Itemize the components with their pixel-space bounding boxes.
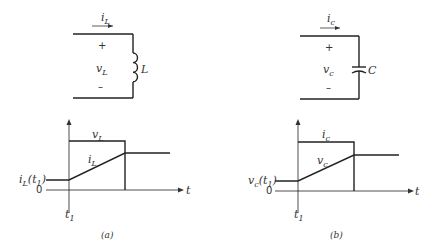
- y-axis-arrow-icon: [67, 119, 72, 125]
- graph-b: [275, 119, 414, 213]
- element-label-a: L: [140, 63, 148, 76]
- top-trace-label-a: vL: [92, 128, 104, 143]
- t-axis-arrow-icon: [178, 188, 184, 193]
- zero-label-a: 0: [36, 184, 42, 195]
- current-label-b: ic: [327, 12, 336, 27]
- current-arrow-a: [92, 24, 113, 28]
- top-trace-label-b: ic: [322, 128, 331, 143]
- figure: iL + vL – L vL iL iL(t1) 0 t t1 (a) ic +…: [0, 0, 440, 247]
- voltage-label-b: vc: [323, 63, 334, 78]
- current-label-a: iL: [101, 11, 110, 26]
- minus-sign-a: –: [98, 81, 103, 92]
- t-axis-label-a: t: [186, 184, 191, 197]
- t1-label-b: t1: [294, 208, 304, 223]
- ramp-trace-label-a: iL: [88, 153, 97, 168]
- element-label-b: C: [368, 64, 377, 77]
- plus-sign-b: +: [325, 42, 333, 53]
- plus-sign-a: +: [98, 40, 106, 51]
- graph-a: [46, 119, 184, 213]
- zero-label-b: 0: [266, 185, 272, 196]
- arrow-head-icon: [335, 26, 340, 30]
- caption-a: (a): [101, 230, 114, 240]
- caption-b: (b): [330, 230, 343, 240]
- inductor-coil-icon: [133, 53, 138, 82]
- initial-value-label-b: vc(t1): [248, 174, 277, 189]
- t1-label-a: t1: [65, 208, 75, 223]
- minus-sign-b: –: [326, 82, 331, 93]
- t-axis-label-b: t: [415, 185, 420, 198]
- ramp-trace-label-b: vc: [317, 154, 328, 169]
- y-axis-arrow-icon: [296, 119, 301, 125]
- voltage-label-a: vL: [96, 62, 108, 77]
- t-axis-arrow-icon: [408, 189, 414, 194]
